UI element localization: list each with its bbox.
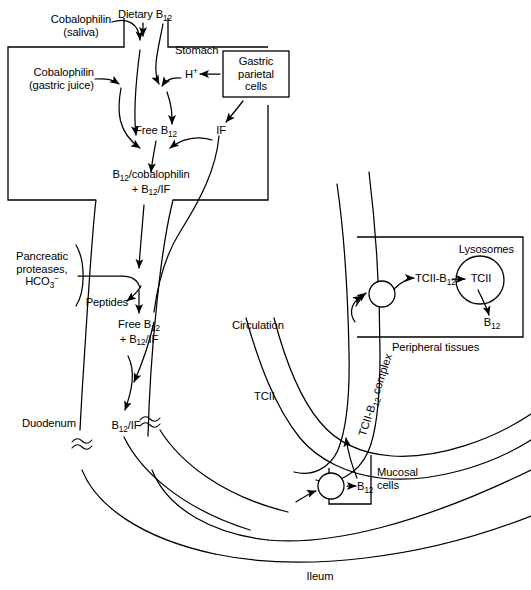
saliva-region-outline <box>8 18 124 200</box>
label-hydrogen-ion: H+ <box>185 68 198 83</box>
label-pancreatic-proteases: Pancreatic proteases, HCO3− <box>16 250 68 290</box>
arrow-dietary-b12-left <box>135 50 140 135</box>
duodenum-right-wall-lower <box>152 470 268 540</box>
arrow-dietary-b12-to-free-b12 <box>156 24 163 84</box>
label-circulation: Circulation <box>232 319 284 332</box>
arrow-parietal-to-if <box>226 101 243 122</box>
break-mark-duodenum-left-2 <box>72 445 92 450</box>
label-cobalophilin-gastric-juice: Cobalophilin (gastric juice) <box>29 66 94 91</box>
label-ileum: Ileum <box>307 570 334 583</box>
duodenum-left-wall <box>80 200 96 430</box>
label-peptides: Peptides <box>86 296 129 309</box>
arrow-cobalophilin-gastric-juice <box>95 79 119 84</box>
circulation-vessel-outer-left <box>246 318 531 479</box>
arrow-into-mucosal-receptor <box>296 491 316 502</box>
label-duodenum: Duodenum <box>22 417 76 430</box>
label-intrinsic-factor: IF <box>216 124 226 137</box>
arrow-if-to-complex <box>170 138 212 148</box>
label-mucosal-cells: Mucosal cells <box>377 466 418 491</box>
arrow-complex-descend <box>139 205 144 268</box>
tcii-b12-vessel-left-wall <box>294 184 349 473</box>
arrow-acid-to-free-b12 <box>167 92 172 124</box>
label-gastric-parietal-cells: Gastric parietal cells <box>238 55 274 93</box>
arrow-cobalophilin-to-complex <box>119 88 140 148</box>
label-dietary-b12: Dietary B12 <box>118 8 172 23</box>
arrow-receptor-to-tcii-b12 <box>394 278 414 289</box>
label-peripheral-tissues: Peripheral tissues <box>392 341 479 354</box>
label-b12-released: B12 <box>484 316 500 331</box>
break-mark-duodenum-right <box>140 417 160 422</box>
break-mark-duodenum-right-2 <box>140 423 160 428</box>
b12-pathway-diagram: Cobalophilin (saliva) Dietary B12 Stomac… <box>0 0 531 590</box>
mucosal-receptor-circle <box>318 473 344 499</box>
label-free-b12: Free B12 <box>135 124 177 139</box>
arrow-hplus-to-b12-release <box>162 78 181 86</box>
label-b12-mucosal: B12 <box>357 480 373 495</box>
if-transport-curve <box>154 136 219 312</box>
b12if-to-ileum-curve <box>124 437 250 530</box>
circulation-vessel-inner-left <box>274 318 531 456</box>
break-mark-duodenum-left <box>72 439 92 444</box>
label-b12-cobalophilin-complex: B12/cobalophilin + B12/IF <box>112 168 189 197</box>
arrow-pancreatic-to-junction <box>78 276 140 288</box>
label-cobalophilin-saliva: Cobalophilin (saliva) <box>51 13 111 38</box>
duodenum-left-wall-lower <box>82 470 215 554</box>
arrow-free-to-b12if <box>125 356 132 410</box>
label-free-b12-plus-b12-if: Free B12 + B12/IF <box>118 318 160 347</box>
peripheral-receptor-circle <box>369 281 395 307</box>
label-lysosomes: Lysosomes <box>459 243 514 256</box>
label-tcii-lysosome: TCII <box>471 272 492 285</box>
label-tcii-circulation: TCII <box>254 390 275 403</box>
label-stomach: Stomach <box>175 44 218 57</box>
label-tcii-b12: TCII-B12 <box>415 272 456 287</box>
arrow-cobalophilin-saliva <box>112 20 140 40</box>
stomach-region-outline <box>168 18 268 47</box>
b12if-to-ileum-curve-2 <box>160 430 288 512</box>
label-b12-if: B12/IF <box>111 419 140 434</box>
